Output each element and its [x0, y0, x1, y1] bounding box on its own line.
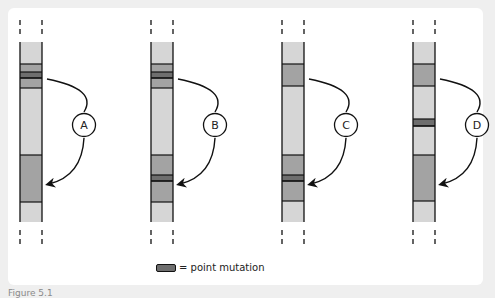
transfer-arrow	[47, 79, 87, 112]
chromosome-c: C	[282, 20, 358, 247]
chromosome-band	[413, 126, 435, 155]
chromosome-band	[282, 155, 304, 175]
arrow-icon	[311, 138, 346, 184]
point-mutation-band	[151, 72, 173, 78]
chromosome-band	[20, 64, 42, 72]
chromosome-band	[151, 155, 173, 175]
point-mutation-swatch	[156, 264, 176, 272]
chromosome-band	[282, 181, 304, 201]
chromosome-band	[20, 202, 42, 222]
point-mutation-band	[151, 175, 173, 181]
chromosome-band	[20, 42, 42, 64]
chromosome-band	[282, 42, 304, 64]
chromosome-band	[413, 201, 435, 222]
chromosome-band	[282, 201, 304, 222]
chromosome-band	[151, 88, 173, 155]
panel-label: B	[211, 119, 219, 132]
chromosome-band	[151, 64, 173, 72]
legend-label: = point mutation	[179, 262, 265, 273]
chromosome-band	[20, 88, 42, 155]
panel-label: C	[342, 119, 350, 132]
point-mutation-band	[282, 175, 304, 181]
point-mutation-band	[20, 72, 42, 78]
chromosome-band	[413, 42, 435, 64]
chromosome-band	[151, 202, 173, 222]
panel-label: A	[80, 119, 88, 132]
chromosome-band	[282, 64, 304, 86]
chromosome-band	[151, 181, 173, 202]
point-mutation-band	[413, 119, 435, 126]
chromosome-band	[413, 64, 435, 86]
legend: = point mutation	[156, 262, 265, 273]
chromosome-band	[413, 155, 435, 201]
chromosome-band	[20, 155, 42, 202]
panel-label: D	[473, 119, 481, 132]
chromosome-band	[151, 78, 173, 88]
chromosome-a: A	[20, 20, 96, 247]
transfer-arrow	[309, 79, 349, 112]
arrow-icon	[49, 138, 84, 184]
chromosome-d: D	[413, 20, 489, 247]
chromosome-band	[413, 86, 435, 119]
arrow-icon	[442, 138, 477, 184]
chromosome-band	[20, 78, 42, 88]
chromosome-band	[151, 42, 173, 64]
chromosome-band	[282, 86, 304, 155]
arrow-icon	[180, 138, 215, 184]
transfer-arrow	[440, 79, 480, 112]
transfer-arrow	[178, 79, 218, 112]
figure-caption: Figure 5.1	[8, 288, 53, 298]
chromosome-b: B	[151, 20, 227, 247]
